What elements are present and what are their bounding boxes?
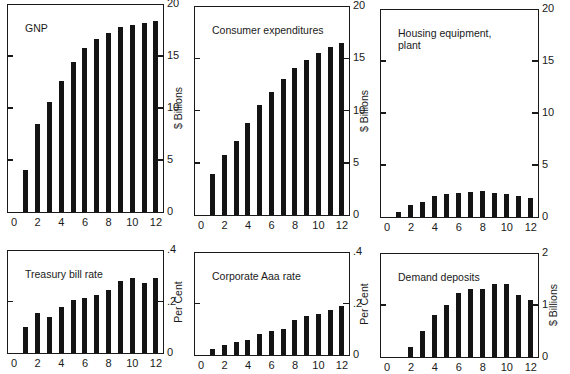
bar [304,316,309,355]
bar [528,198,533,217]
x-tick-label: 4 [432,362,438,373]
bar [118,27,123,212]
x-tick-label: 8 [106,217,112,228]
x-tick-label: 10 [312,360,324,371]
y-tick-label: 15 [167,50,179,61]
y-tick [532,60,539,62]
x-tick-label: 10 [501,362,513,373]
y-tick [157,55,164,57]
x-tick-label: 0 [11,217,17,228]
bar [82,298,87,353]
panel-title: Housing equipment, plant [398,27,491,51]
x-tick-label: 4 [58,358,64,369]
bar [35,313,40,353]
bar [432,196,437,217]
x-tick-label: 10 [312,220,324,231]
bar [504,284,509,357]
x-tick-label: 6 [82,217,88,228]
y-tick-label: 0 [353,349,359,360]
bar [516,295,521,357]
bar [210,349,215,355]
y-tick [343,303,350,305]
y-tick-label: 15 [542,55,554,66]
bar [468,192,473,217]
y-tick-label: 0 [353,209,359,220]
x-tick-label: 6 [268,360,274,371]
bar [222,155,227,215]
bar [328,310,333,355]
bar [47,102,52,212]
y-tick-left [7,159,13,161]
y-tick-label: 5 [167,154,173,165]
y-tick [157,301,164,303]
bar [142,23,147,212]
y-tick-left [194,162,200,164]
x-tick-label: 6 [268,220,274,231]
x-tick-label: 0 [384,222,390,233]
bar [269,331,274,355]
x-tick-label: 10 [126,217,138,228]
bar [222,345,227,355]
bar [257,334,262,355]
bar [153,21,158,212]
x-tick-label: 2 [221,360,227,371]
y-tick-left [194,58,200,60]
bar [47,317,52,353]
y-tick-label: .2 [167,296,176,307]
bar [480,191,485,217]
bar [71,300,76,353]
y-tick [157,159,164,161]
y-tick-label: 20 [353,0,365,11]
bar [396,212,401,217]
bar [269,92,274,215]
x-tick-label: 10 [126,358,138,369]
y-tick-label: 20 [167,0,179,9]
y-tick-label: 0 [542,351,548,362]
x-tick-label: 12 [336,360,348,371]
bar [118,281,123,353]
x-tick-label: 0 [198,220,204,231]
bar [432,315,437,357]
bar [94,39,99,212]
bar [23,170,28,212]
bar [142,283,147,353]
bar [516,196,521,217]
x-tick-label: 6 [82,358,88,369]
x-tick-label: 12 [525,222,537,233]
bar [234,141,239,215]
bar [71,62,76,212]
x-tick-label: 0 [198,360,204,371]
bar [420,331,425,357]
x-tick-label: 8 [292,220,298,231]
y-tick-label: .4 [353,246,362,257]
y-tick-label: 20 [542,3,554,14]
y-tick-label: 1 [542,299,548,310]
bar [304,60,309,215]
x-tick-label: 2 [221,220,227,231]
bar [35,124,40,212]
x-tick-label: 6 [456,362,462,373]
bar [456,293,461,357]
bar [456,193,461,217]
bar [245,340,250,355]
panel-title: Treasury bill rate [25,268,103,280]
bar [59,307,64,353]
bar [281,79,286,215]
x-tick-label: 10 [501,222,513,233]
x-tick-label: 0 [11,358,17,369]
y-tick-label: 0 [167,347,173,358]
bar [106,290,111,353]
y-tick-left [380,164,386,166]
y-tick-label: 10 [542,107,554,118]
bar [492,193,497,217]
bar [528,300,533,357]
bar [292,68,297,215]
bar [59,81,64,212]
y-tick [343,110,350,112]
bar [210,174,215,215]
bar [480,289,485,357]
y-axis-title: $ Billions [547,284,559,326]
x-tick-label: 2 [35,358,41,369]
y-tick-left [194,303,200,305]
y-tick-label: 5 [353,157,359,168]
